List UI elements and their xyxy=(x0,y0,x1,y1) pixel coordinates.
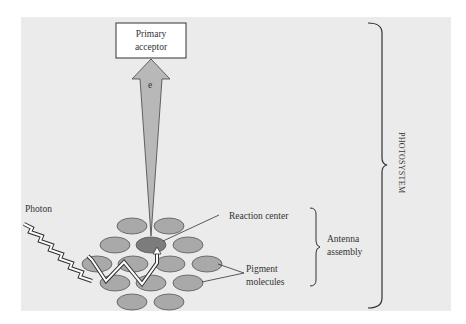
photosystem-diagram: Primary acceptor e Photon Reac xyxy=(0,0,466,324)
pigment-molecule xyxy=(117,294,147,310)
pigment-molecule xyxy=(155,256,185,272)
pigment-label-2: molecules xyxy=(246,277,285,287)
pigment-molecule xyxy=(117,218,147,234)
pigment-molecule xyxy=(100,237,130,253)
pigment-molecule xyxy=(173,237,203,253)
pigment-molecule xyxy=(154,218,184,234)
reaction-center-molecule xyxy=(136,237,166,253)
primary-acceptor-box: Primary acceptor xyxy=(116,23,186,58)
photon-label: Photon xyxy=(25,204,52,214)
electron-label: e xyxy=(148,80,152,90)
reaction-center-label: Reaction center xyxy=(229,211,289,221)
antenna-label-1: Antenna xyxy=(327,234,360,244)
photosystem-label: PHOTOSYSTEM xyxy=(397,132,406,193)
primary-acceptor-label-2: acceptor xyxy=(135,42,168,52)
pigment-label-1: Pigment xyxy=(246,264,278,274)
antenna-label-2: assembly xyxy=(327,247,363,257)
pigment-molecule xyxy=(154,294,184,310)
primary-acceptor-label-1: Primary xyxy=(136,29,167,39)
pigment-molecule xyxy=(173,275,203,291)
pigment-molecule xyxy=(192,256,222,272)
